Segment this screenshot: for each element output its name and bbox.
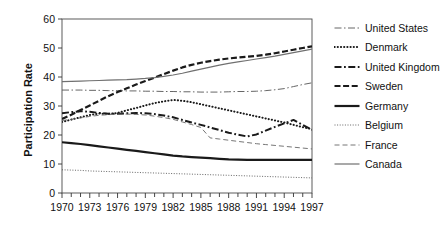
series-line-denmark	[62, 100, 312, 129]
legend-label: United Kingdom	[365, 62, 440, 72]
series-line-sweden	[62, 46, 312, 119]
y-tick-label: 30	[43, 100, 55, 112]
legend-line-swatch	[334, 159, 360, 169]
legend-label: Germany	[365, 101, 408, 111]
x-tick-label: 1973	[78, 201, 102, 213]
legend-item-united-kingdom[interactable]: United Kingdom	[334, 57, 448, 77]
legend-item-denmark[interactable]: Denmark	[334, 38, 448, 58]
legend-line-swatch	[334, 62, 360, 72]
x-tick-label: 1991	[245, 201, 269, 213]
legend-line-swatch	[334, 42, 360, 52]
legend-item-france[interactable]: France	[334, 135, 448, 155]
x-tick-label: 1985	[189, 201, 213, 213]
legend-line-swatch	[334, 101, 360, 111]
legend-line-swatch	[334, 120, 360, 130]
chart-svg: 0102030405060197019731976197919821985198…	[0, 0, 330, 232]
plot-frame	[62, 19, 312, 193]
y-tick-label: 0	[49, 187, 55, 199]
series-line-united-kingdom	[62, 111, 312, 136]
legend-item-canada[interactable]: Canada	[334, 155, 448, 175]
legend-label: Belgium	[365, 120, 403, 130]
y-tick-label: 10	[43, 158, 55, 170]
series-group	[62, 46, 312, 178]
legend-item-united-states[interactable]: United States	[334, 18, 448, 38]
y-tick-label: 40	[43, 71, 55, 83]
legend-item-germany[interactable]: Germany	[334, 96, 448, 116]
legend-line-swatch	[334, 23, 360, 33]
legend-line-swatch	[334, 140, 360, 150]
series-line-germany	[62, 142, 312, 160]
x-tick-label: 1997	[300, 201, 324, 213]
legend-item-sweden[interactable]: Sweden	[334, 77, 448, 97]
x-tick-label: 1988	[217, 201, 241, 213]
series-line-france	[62, 114, 312, 149]
legend-label: Canada	[365, 159, 402, 169]
series-line-united-states	[62, 83, 312, 92]
y-tick-label: 50	[43, 42, 55, 54]
y-tick-label: 60	[43, 13, 55, 25]
y-tick-label: 20	[43, 129, 55, 141]
series-line-belgium	[62, 170, 312, 178]
x-tick-label: 1970	[50, 201, 74, 213]
legend-item-belgium[interactable]: Belgium	[334, 116, 448, 136]
chart-root: Participation Rate 010203040506019701973…	[0, 0, 448, 232]
plot-area: Participation Rate 010203040506019701973…	[0, 0, 330, 232]
legend-line-swatch	[334, 81, 360, 91]
legend-label: France	[365, 140, 398, 150]
legend-label: United States	[365, 23, 428, 33]
chart-legend: United StatesDenmarkUnited KingdomSweden…	[334, 18, 448, 174]
x-tick-label: 1994	[273, 201, 297, 213]
x-tick-label: 1982	[161, 201, 185, 213]
x-tick-label: 1976	[106, 201, 130, 213]
x-tick-label: 1979	[134, 201, 158, 213]
legend-label: Denmark	[365, 42, 408, 52]
legend-label: Sweden	[365, 81, 403, 91]
